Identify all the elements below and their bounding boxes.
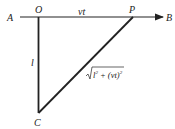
label-o: O <box>35 4 42 15</box>
label-vt: vt <box>78 6 85 17</box>
label-p: P <box>128 4 135 15</box>
svg-text:l2 + (vt)2: l2 + (vt)2 <box>93 70 123 80</box>
label-l: l <box>31 57 34 68</box>
label-a: A <box>6 12 14 23</box>
label-b: B <box>166 12 172 23</box>
label-c: C <box>34 117 41 128</box>
segment-cp <box>39 17 134 113</box>
label-hypotenuse: l2 + (vt)2 <box>86 67 124 80</box>
diagram-canvas: A O P B C vt l l2 + (vt)2 <box>0 0 175 129</box>
